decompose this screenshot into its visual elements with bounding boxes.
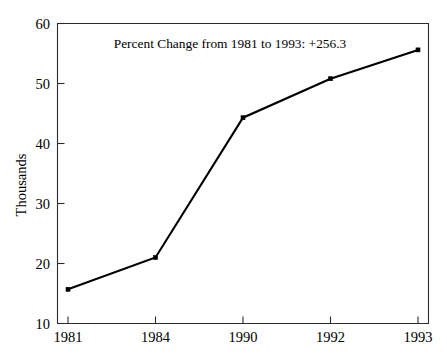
x-tick-label-1981: 1981 (54, 329, 83, 345)
percent-change-annotation: Percent Change from 1981 to 1993: +256.3 (114, 36, 347, 51)
y-tick-label-20: 20 (36, 256, 51, 272)
y-axis-title: Thousands (13, 153, 29, 216)
data-point-1990 (241, 116, 245, 120)
y-tick-label-40: 40 (36, 136, 51, 152)
y-tick-label-10: 10 (36, 316, 51, 332)
data-point-1992 (329, 77, 333, 81)
chart-background (0, 0, 447, 364)
line-chart: 10 20 30 40 50 60 1981 1984 1990 1992 19… (0, 0, 447, 364)
data-point-1984 (154, 256, 158, 260)
y-tick-label-60: 60 (36, 16, 51, 32)
x-tick-label-1993: 1993 (404, 329, 433, 345)
x-tick-label-1984: 1984 (141, 329, 171, 345)
x-tick-label-1990: 1990 (229, 329, 258, 345)
y-tick-label-50: 50 (36, 76, 51, 92)
x-tick-label-1992: 1992 (316, 329, 345, 345)
chart-container: 10 20 30 40 50 60 1981 1984 1990 1992 19… (0, 0, 447, 364)
y-tick-label-30: 30 (36, 196, 51, 212)
data-point-1993 (416, 48, 420, 52)
data-point-1981 (66, 287, 70, 291)
